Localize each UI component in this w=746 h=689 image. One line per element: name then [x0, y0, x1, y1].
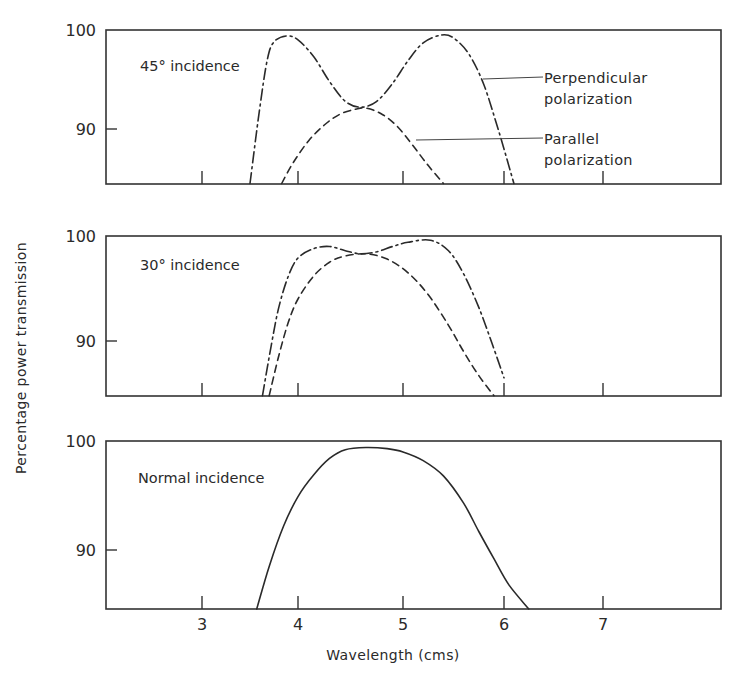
perp-leader-line: [483, 77, 543, 79]
x-axis-title: Wavelength (cms): [326, 647, 459, 663]
panel-label-normal: Normal incidence: [138, 470, 265, 486]
panel-45-incidence: 100 90 45° incidence Perpendicular polar…: [65, 21, 721, 184]
chart-figure: Percentage power transmission 100 90 45°…: [0, 0, 746, 689]
panel-frame: [106, 441, 721, 609]
par-leader-line: [416, 138, 543, 140]
xtick-label-5: 5: [398, 615, 408, 634]
curve-parallel-polarization: [269, 254, 494, 396]
ytick-label-100: 100: [65, 432, 96, 451]
panel-curves: [257, 447, 529, 609]
ytick-label-100: 100: [65, 227, 96, 246]
annotation-parallel-line1: Parallel: [544, 131, 599, 147]
ytick-label-90: 90: [76, 332, 96, 351]
ytick-label-90: 90: [76, 120, 96, 139]
annotation-perpendicular-line2: polarization: [544, 91, 633, 107]
curve-perpendicular-polarization: [250, 35, 514, 184]
ytick-label-100: 100: [65, 21, 96, 40]
panel-30-incidence: 100 90 30° incidence: [65, 227, 721, 396]
panel-curves: [250, 35, 514, 184]
panel-label-30: 30° incidence: [140, 257, 240, 273]
panel-normal-incidence: 100 90 Normal incidence 3 4 5 6 7: [65, 432, 721, 634]
panel-label-45: 45° incidence: [140, 58, 240, 74]
xtick-label-6: 6: [499, 615, 509, 634]
x-ticks: [202, 171, 603, 184]
ytick-label-90: 90: [76, 541, 96, 560]
curve-normal-incidence: [257, 447, 529, 609]
panel-curves: [263, 240, 505, 396]
curve-perpendicular-polarization: [263, 240, 505, 396]
xtick-label-4: 4: [293, 615, 303, 634]
y-axis-title: Percentage power transmission: [13, 242, 29, 474]
annotation-parallel-line2: polarization: [544, 152, 633, 168]
x-ticks: [202, 596, 603, 609]
annotation-perpendicular-line1: Perpendicular: [544, 70, 648, 86]
xtick-label-3: 3: [197, 615, 207, 634]
xtick-label-7: 7: [598, 615, 608, 634]
curve-parallel-polarization: [282, 108, 444, 184]
